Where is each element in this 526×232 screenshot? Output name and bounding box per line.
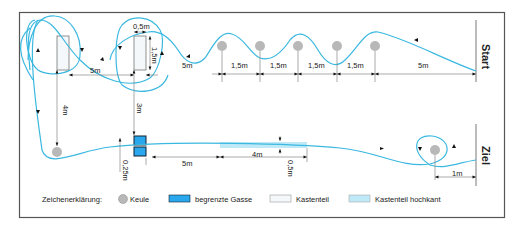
- legend-box-upright-icon: [349, 195, 370, 202]
- svg-text:5m: 5m: [418, 61, 428, 70]
- svg-text:1,5m: 1,5m: [150, 47, 159, 64]
- svg-text:1,5m: 1,5m: [308, 61, 325, 70]
- svg-text:3m: 3m: [135, 103, 144, 113]
- cone-icon: [52, 147, 62, 157]
- box-left: [57, 36, 69, 70]
- start-label: Start: [480, 44, 492, 69]
- svg-text:4m: 4m: [252, 150, 262, 159]
- legend-box-icon: [270, 195, 291, 202]
- svg-text:0,5m: 0,5m: [133, 22, 150, 31]
- legend-cone-icon: [119, 195, 128, 204]
- course-diagram: Start Ziel: [0, 0, 526, 232]
- cone-icon: [217, 41, 227, 51]
- svg-text:0,5m: 0,5m: [286, 160, 295, 177]
- svg-text:1,5m: 1,5m: [270, 61, 287, 70]
- box-right: [134, 36, 146, 70]
- legend: Zeichenerklärung: Keule begrenzte Gasse …: [42, 195, 441, 205]
- svg-text:1,5m: 1,5m: [231, 61, 248, 70]
- cone-icon: [370, 41, 380, 51]
- cone-icon: [430, 145, 440, 155]
- gate-bottom: [134, 147, 146, 156]
- svg-text:0,25m: 0,25m: [121, 160, 130, 181]
- legend-title: Zeichenerklärung:: [42, 195, 102, 204]
- gate-top: [134, 136, 146, 145]
- cone-icon: [293, 41, 303, 51]
- svg-text:5m: 5m: [182, 159, 192, 168]
- legend-gate-label: begrenzte Gasse: [195, 195, 252, 204]
- svg-text:5m: 5m: [90, 66, 100, 75]
- legend-gate-icon: [169, 195, 190, 202]
- legend-box-label: Kastenteil: [296, 195, 329, 204]
- cone-icon: [255, 41, 265, 51]
- svg-text:1m: 1m: [452, 169, 462, 178]
- legend-cone-label: Keule: [130, 195, 149, 204]
- finish-label: Ziel: [480, 146, 492, 165]
- svg-text:4m: 4m: [61, 105, 70, 115]
- cone-icon: [332, 41, 342, 51]
- svg-text:1,5m: 1,5m: [347, 61, 364, 70]
- svg-text:5m: 5m: [182, 61, 192, 70]
- legend-box-upright-label: Kastenteil hochkant: [375, 195, 441, 204]
